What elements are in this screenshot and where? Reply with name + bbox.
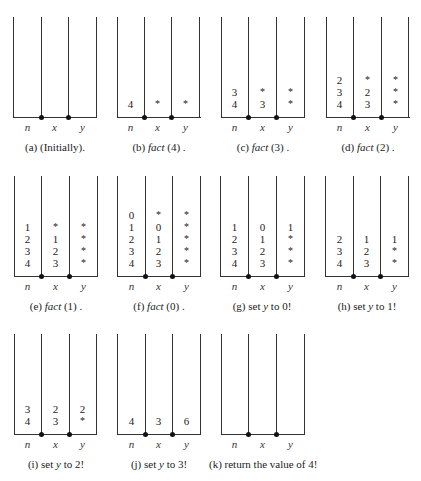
stack-cell: 4 <box>128 98 134 110</box>
stack-cell: 4 <box>337 98 343 110</box>
stack-cell: 3 <box>260 98 266 110</box>
stack-cell: 4 <box>232 257 238 269</box>
var-label-x: x <box>249 437 276 451</box>
stack-cell: 1 <box>129 221 135 233</box>
stack-frame: 34 *3 ** <box>221 17 305 118</box>
var-label-n: n <box>14 120 41 134</box>
stack-cell: 2 <box>337 74 343 86</box>
stack-wall-right <box>304 176 305 277</box>
stack-cell: 3 <box>53 257 59 269</box>
stack-cell: 2 <box>25 233 31 245</box>
stack-cell: 6 <box>184 415 190 427</box>
stack-cell: * <box>183 98 188 110</box>
panel-b: 4 * * n x y (b) fact (4) . <box>117 17 201 157</box>
column-y: ***** <box>173 209 200 269</box>
stack-cell: 1 <box>232 221 238 233</box>
var-label-n: n <box>221 120 248 134</box>
stack-cell: 3 <box>232 245 238 257</box>
stack-base <box>326 117 410 118</box>
panel-j: 4 3 6 n x y (j) set y to 3! <box>117 334 201 474</box>
stack-frame <box>13 17 97 118</box>
stack-wall-right <box>408 176 409 277</box>
stack-cell: 1 <box>364 233 370 245</box>
variable-labels: n x y <box>220 279 304 293</box>
stack-cell: * <box>365 74 370 86</box>
column-y: ** <box>277 86 304 110</box>
var-label-y: y <box>277 437 304 451</box>
stack-cell: 3 <box>260 257 266 269</box>
stack-cell: * <box>393 86 398 98</box>
stack-frame: 1234 *123 **** <box>14 176 98 277</box>
stack-wall-right <box>97 176 98 277</box>
panel-caption: (j) set y to 3! <box>97 456 221 472</box>
stack-cell: 0 <box>156 221 162 233</box>
column-n: 1234 <box>14 221 41 269</box>
var-label-y: y <box>277 120 304 134</box>
stack-cell: * <box>393 74 398 86</box>
stack-cell: * <box>184 209 189 221</box>
stack-frame: 234 *23 *** <box>326 17 410 118</box>
var-label-n: n <box>14 437 41 451</box>
column-y: * <box>172 98 199 110</box>
stack-cell: 4 <box>129 257 135 269</box>
stack-cell: * <box>288 86 293 98</box>
column-y: *** <box>382 74 409 110</box>
stack-cell: 1 <box>260 233 266 245</box>
stack-wall-right <box>96 334 97 435</box>
stack-cell: * <box>288 233 293 245</box>
column-n: 01234 <box>118 209 145 269</box>
stack-cell: * <box>53 221 58 233</box>
stack-cell: 3 <box>53 415 59 427</box>
stack-frame <box>221 334 305 435</box>
var-label-x: x <box>41 120 68 134</box>
var-label-n: n <box>118 437 145 451</box>
column-x: *123 <box>42 221 69 269</box>
column-x: * <box>144 98 171 110</box>
stack-cell: 2 <box>260 245 266 257</box>
stack-cell: * <box>288 257 293 269</box>
stack-cell: 4 <box>337 257 343 269</box>
column-y: 6 <box>173 415 200 427</box>
column-y: 1** <box>381 233 408 269</box>
stack-cell: 2 <box>156 245 162 257</box>
stack-cell: * <box>80 415 85 427</box>
var-label-n: n <box>326 120 353 134</box>
stack-cell: 1 <box>392 233 398 245</box>
var-label-n: n <box>326 279 353 293</box>
variable-labels: n x y <box>221 120 305 134</box>
var-label-n: n <box>118 279 145 293</box>
var-label-y: y <box>69 120 96 134</box>
stack-cell: * <box>81 257 86 269</box>
stack-cell: * <box>184 233 189 245</box>
variable-labels: n x y <box>325 279 409 293</box>
stack-cell: 4 <box>25 415 31 427</box>
column-x: *3 <box>249 86 276 110</box>
stack-cell: 2 <box>129 233 135 245</box>
stack-frame: 234 123 1** <box>325 176 409 277</box>
panel-k: n x y (k) return the value of 4! <box>221 334 305 474</box>
var-label-y: y <box>172 120 199 134</box>
stack-base <box>221 434 305 435</box>
var-label-y: y <box>382 120 409 134</box>
stack-wall-right <box>304 334 305 435</box>
stack-cell: 1 <box>288 221 294 233</box>
stack-wall-right <box>200 334 201 435</box>
stack-cell: * <box>260 86 265 98</box>
var-label-x: x <box>145 279 172 293</box>
column-y: 2* <box>69 403 96 427</box>
stack-cell: 2 <box>364 245 370 257</box>
stack-cell: * <box>81 233 86 245</box>
stack-cell: * <box>184 257 189 269</box>
stack-cell: 1 <box>53 233 59 245</box>
stack-cell: 3 <box>156 257 162 269</box>
var-label-n: n <box>117 120 144 134</box>
column-x: 3 <box>145 415 172 427</box>
column-n: 234 <box>326 74 353 110</box>
stack-cell: 1 <box>156 233 162 245</box>
stack-cell: 2 <box>365 86 371 98</box>
variable-labels: n x y <box>117 437 201 451</box>
stack-divider-x-y <box>68 17 69 118</box>
stack-frame: 4 * * <box>117 17 201 118</box>
variable-labels: n x y <box>221 437 305 451</box>
stack-cell: * <box>392 257 397 269</box>
